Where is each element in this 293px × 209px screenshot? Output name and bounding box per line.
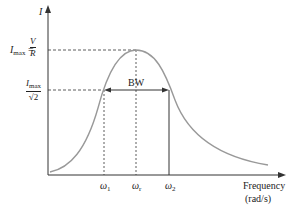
half-power-fraction: Imax √2 [26, 79, 41, 102]
bw-arrow-left-icon [104, 88, 111, 93]
v-over-r-fraction: VR [30, 37, 36, 58]
y-axis-label: I [39, 7, 42, 17]
resonance-diagram: I Imax = VR Imax √2 BW ω1 ωr ω2 Frequenc… [0, 0, 293, 209]
x-axis-label: Frequency [243, 181, 285, 191]
y-axis-arrow-icon [45, 5, 51, 13]
omegar-label: ωr [132, 181, 141, 193]
bw-arrow-right-icon [162, 88, 169, 93]
omega2-label: ω2 [165, 181, 176, 193]
x-axis-units: (rad/s) [245, 194, 271, 204]
bandwidth-label: BW [128, 78, 144, 88]
x-axis-arrow-icon [278, 172, 286, 178]
omega1-label: ω1 [100, 181, 111, 193]
resonance-curve-plot [0, 0, 293, 209]
response-curve [50, 50, 268, 172]
